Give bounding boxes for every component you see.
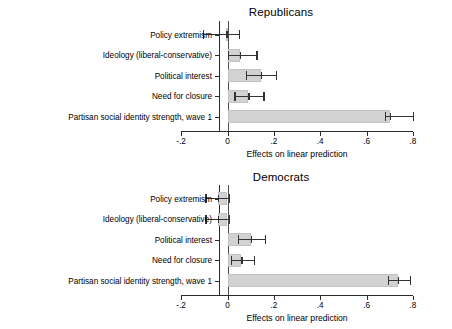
confidence-interval-line <box>228 55 257 56</box>
x-axis-tick-label: .2 <box>270 137 277 146</box>
ci-cap-lower <box>238 235 239 244</box>
x-axis-tick <box>320 132 321 136</box>
ci-cap-upper <box>263 92 264 101</box>
panel-democrats: Democrats Policy extremismIdeology (libe… <box>0 165 452 329</box>
category-label: Policy extremism <box>150 30 212 39</box>
category-label: Partisan social identity strength, wave … <box>68 112 212 121</box>
panel-republicans: Republicans Policy extremismIdeology (li… <box>0 0 452 164</box>
point-estimate-marker <box>226 31 227 38</box>
x-axis-tick-label: -.2 <box>176 301 186 310</box>
y-axis-tick <box>215 96 219 97</box>
ci-cap-upper <box>229 194 230 203</box>
figure: Republicans Policy extremismIdeology (li… <box>0 0 452 329</box>
ci-cap-lower <box>388 276 389 285</box>
x-axis-tick-label: .4 <box>317 137 324 146</box>
x-axis-tick <box>274 296 275 300</box>
category-label: Policy extremism <box>150 194 212 203</box>
point-estimate-marker <box>261 72 262 79</box>
ci-cap-lower <box>385 112 386 121</box>
y-axis-tick <box>215 35 219 36</box>
x-axis-tick <box>228 132 229 136</box>
x-axis-tick <box>228 296 229 300</box>
x-axis-tick-label: 0 <box>225 301 230 310</box>
ci-cap-lower <box>246 71 247 80</box>
plot-area-republicans: Policy extremismIdeology (liberal-conser… <box>0 0 452 164</box>
category-label: Need for closure <box>152 256 212 265</box>
x-axis-tick <box>367 296 368 300</box>
x-axis-tick-label: .2 <box>270 301 277 310</box>
x-axis-tick <box>367 132 368 136</box>
category-label: Ideology (liberal-conservative) <box>103 215 212 224</box>
category-label: Political interest <box>155 235 212 244</box>
y-axis-tick <box>215 260 219 261</box>
point-estimate-marker <box>248 93 249 100</box>
y-axis-tick <box>215 76 219 77</box>
x-axis-tick <box>181 296 182 300</box>
y-axis-tick <box>215 55 219 56</box>
y-axis-line <box>219 21 220 131</box>
point-estimate-marker <box>251 236 252 243</box>
y-axis-tick <box>215 281 219 282</box>
x-axis-tick-label: -.2 <box>176 137 186 146</box>
x-axis-tick-label: .6 <box>363 301 370 310</box>
y-axis-tick <box>215 199 219 200</box>
y-axis-tick <box>215 117 219 118</box>
x-axis-tick-label: 0 <box>225 137 230 146</box>
y-axis-tick <box>215 240 219 241</box>
x-axis-line <box>181 131 413 132</box>
y-axis-tick <box>215 219 219 220</box>
point-estimate-marker <box>240 52 241 59</box>
ci-cap-upper <box>229 215 230 224</box>
category-label: Need for closure <box>152 92 212 101</box>
category-label: Partisan social identity strength, wave … <box>68 276 212 285</box>
point-estimate-marker <box>241 257 242 264</box>
x-axis-tick-label: .4 <box>317 301 324 310</box>
x-axis-tick-label: .8 <box>410 301 417 310</box>
ci-cap-upper <box>254 256 255 265</box>
ci-cap-upper <box>276 71 277 80</box>
ci-cap-upper <box>413 112 414 121</box>
plot-area-democrats: Policy extremismIdeology (liberal-conser… <box>0 165 452 329</box>
x-axis-tick <box>413 132 414 136</box>
ci-cap-lower <box>228 51 229 60</box>
x-axis-title: Effects on linear prediction <box>247 313 348 323</box>
x-axis-tick-label: .8 <box>410 137 417 146</box>
point-estimate-marker <box>390 113 391 120</box>
ci-cap-lower <box>234 92 235 101</box>
ci-cap-upper <box>265 235 266 244</box>
x-axis-line <box>181 295 413 296</box>
x-axis-tick <box>320 296 321 300</box>
x-axis-title: Effects on linear prediction <box>247 149 348 159</box>
ci-cap-upper <box>256 51 257 60</box>
category-label: Ideology (liberal-conservative) <box>103 51 212 60</box>
point-estimate-marker <box>398 277 399 284</box>
bar <box>228 110 390 123</box>
x-axis-tick <box>181 132 182 136</box>
ci-cap-upper <box>410 276 411 285</box>
ci-cap-lower <box>231 256 232 265</box>
category-label: Political interest <box>155 71 212 80</box>
x-axis-tick-label: .6 <box>363 137 370 146</box>
x-axis-tick <box>413 296 414 300</box>
x-axis-tick <box>274 132 275 136</box>
ci-cap-upper <box>239 30 240 39</box>
bar <box>228 274 398 287</box>
